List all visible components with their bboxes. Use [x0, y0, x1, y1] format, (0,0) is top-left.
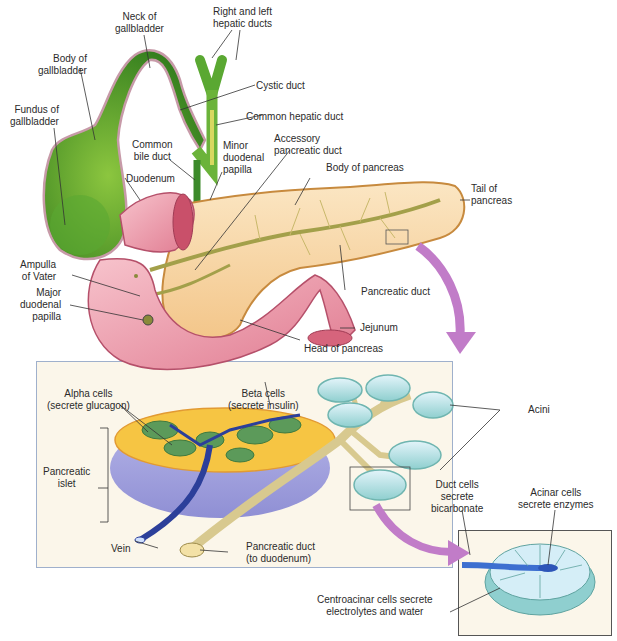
label-pancreatic-duct: Pancreatic duct: [361, 286, 430, 298]
label-beta-cells: Beta cells (secrete insulin): [228, 388, 299, 412]
label-centroacinar-cells: Centroacinar cells secrete electrolytes …: [317, 594, 433, 618]
pancreas: [150, 182, 464, 338]
label-head-of-pancreas: Head of pancreas: [304, 343, 383, 355]
label-acinar-cells: Acinar cells secrete enzymes: [518, 487, 594, 511]
label-jejunum: Jejunum: [360, 322, 398, 334]
label-duodenum: Duodenum: [126, 173, 175, 185]
label-body-of-gallbladder: Body of gallbladder: [38, 53, 87, 77]
anatomy-diagram: Neck of gallbladder Right and left hepat…: [0, 0, 617, 641]
label-neck-of-gallbladder: Neck of gallbladder: [115, 11, 164, 35]
label-ampulla-of-vater: Ampulla of Vater: [20, 259, 56, 283]
label-common-hepatic-duct: Common hepatic duct: [246, 111, 343, 123]
label-right-left-hepatic-ducts: Right and left hepatic ducts: [213, 6, 272, 30]
label-common-bile-duct: Common bile duct: [132, 139, 173, 163]
label-body-of-pancreas: Body of pancreas: [326, 162, 404, 174]
label-fundus-of-gallbladder: Fundus of gallbladder: [10, 104, 59, 128]
label-cystic-duct: Cystic duct: [256, 80, 305, 92]
label-pancreatic-duct-to-duodenum: Pancreatic duct (to duodenum): [246, 541, 315, 565]
label-alpha-cells: Alpha cells (secrete glucagon): [47, 388, 130, 412]
label-acini: Acini: [528, 404, 550, 416]
label-vein: Vein: [111, 543, 130, 555]
label-major-duodenal-papilla: Major duodenal papilla: [20, 287, 61, 323]
label-minor-duodenal-papilla: Minor duodenal papilla: [223, 140, 264, 176]
acinus-cross-section: [462, 544, 595, 615]
label-accessory-pancreatic-duct: Accessory pancreatic duct: [274, 133, 342, 157]
label-tail-of-pancreas: Tail of pancreas: [471, 183, 512, 207]
label-duct-cells: Duct cells secrete bicarbonate: [431, 479, 483, 515]
label-pancreatic-islet: Pancreatic islet: [43, 466, 90, 490]
